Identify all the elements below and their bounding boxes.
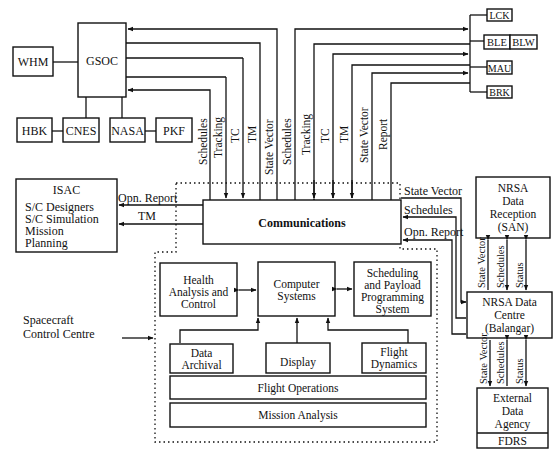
- svg-text:HBK: HBK: [22, 124, 48, 138]
- computer-systems-box: Computer Systems: [258, 262, 335, 316]
- svg-text:MAU: MAU: [488, 63, 512, 74]
- blw-box: BLW: [510, 35, 537, 49]
- svg-text:Data: Data: [502, 405, 524, 417]
- hbk-box: HBK: [17, 118, 52, 142]
- nrsa-reception-box: NRSA Data Reception (SAN): [476, 177, 550, 238]
- cnes-box: CNES: [63, 118, 99, 142]
- svg-text:Health: Health: [183, 274, 214, 286]
- svg-text:Schedules: Schedules: [404, 203, 453, 217]
- svg-text:Opn. Report: Opn. Report: [404, 225, 464, 239]
- scheduling-payload-box: Scheduling and Payload Programming Syste…: [354, 262, 431, 316]
- svg-text:TM: TM: [138, 209, 156, 223]
- svg-text:Schedules: Schedules: [495, 245, 506, 288]
- health-analysis-box: Health Analysis and Control: [160, 263, 237, 316]
- display-box: Display: [266, 343, 330, 373]
- nasa-box: NASA: [110, 118, 145, 142]
- svg-text:Data: Data: [502, 195, 524, 207]
- svg-text:Schedules: Schedules: [281, 118, 293, 165]
- svg-text:Reception: Reception: [490, 208, 537, 221]
- svg-text:BRK: BRK: [489, 87, 510, 98]
- gsoc-link-labels: Schedules Tracking TC TM State Vector: [197, 117, 275, 175]
- svg-text:ISAC: ISAC: [53, 183, 80, 197]
- svg-text:Control: Control: [181, 298, 216, 310]
- svg-text:Data: Data: [191, 347, 213, 359]
- svg-text:Centre: Centre: [494, 309, 525, 321]
- station-links: [295, 15, 487, 200]
- svg-text:Systems: Systems: [277, 290, 316, 303]
- scc-label: Spacecraft Control Centre: [23, 313, 95, 341]
- svg-text:Display: Display: [280, 356, 316, 369]
- svg-text:State Vector: State Vector: [263, 119, 275, 175]
- svg-text:GSOC: GSOC: [86, 54, 118, 68]
- svg-text:CNES: CNES: [66, 124, 97, 138]
- block-diagram: WHM GSOC HBK CNES NASA PKF Schedules Tra…: [0, 0, 558, 458]
- svg-text:BLW: BLW: [512, 37, 535, 48]
- svg-text:Archival: Archival: [181, 359, 221, 371]
- svg-text:State Vector: State Vector: [404, 184, 462, 198]
- centre-external-links: State Vector Schedules Status: [478, 333, 526, 386]
- svg-text:Communications: Communications: [258, 216, 346, 230]
- svg-text:Mission Analysis: Mission Analysis: [258, 409, 338, 422]
- svg-text:Tracking: Tracking: [212, 117, 225, 158]
- svg-text:Tracking: Tracking: [300, 114, 313, 155]
- gsoc-links: [126, 29, 277, 200]
- svg-text:NRSA Data: NRSA Data: [482, 296, 537, 308]
- lck-box: LCK: [487, 9, 512, 21]
- svg-text:Flight Operations: Flight Operations: [258, 382, 339, 395]
- svg-text:System: System: [376, 303, 410, 316]
- svg-text:Planning: Planning: [25, 236, 68, 250]
- brk-box: BRK: [487, 86, 512, 98]
- svg-text:State Vector: State Vector: [478, 333, 489, 384]
- svg-text:NASA: NASA: [111, 124, 144, 138]
- svg-text:TM: TM: [338, 126, 350, 143]
- mission-analysis-box: Mission Analysis: [170, 403, 426, 427]
- svg-text:Agency: Agency: [495, 418, 531, 431]
- svg-text:WHM: WHM: [18, 55, 49, 69]
- svg-text:Opn. Report: Opn. Report: [118, 191, 178, 205]
- svg-text:Status: Status: [514, 358, 525, 384]
- flight-operations-box: Flight Operations: [170, 376, 426, 399]
- flight-dynamics-box: Flight Dynamics: [362, 343, 426, 373]
- svg-text:External: External: [493, 392, 532, 404]
- reception-centre-links: State Vector Schedules Status: [476, 237, 526, 290]
- isac-links: Opn. Report TM: [118, 191, 203, 224]
- svg-text:State Vector: State Vector: [358, 107, 370, 163]
- pkf-box: PKF: [156, 118, 192, 142]
- svg-text:State Vector: State Vector: [476, 237, 487, 288]
- station-link-labels: Schedules Tracking TC TM State Vector Re…: [281, 107, 390, 165]
- svg-text:BLE: BLE: [487, 37, 507, 48]
- isac-box: ISAC S/C Designers S/C Simulation Missio…: [16, 179, 117, 252]
- svg-text:Schedules: Schedules: [495, 341, 506, 384]
- gsoc-box: GSOC: [78, 23, 126, 97]
- svg-text:PKF: PKF: [163, 124, 185, 138]
- svg-text:TC: TC: [229, 128, 241, 143]
- whm-box: WHM: [13, 47, 53, 76]
- svg-text:Control Centre: Control Centre: [23, 327, 95, 341]
- svg-text:TC: TC: [319, 128, 331, 143]
- svg-text:Report: Report: [377, 118, 390, 150]
- mau-box: MAU: [487, 61, 512, 74]
- svg-text:(Balangar): (Balangar): [485, 322, 534, 335]
- svg-text:(SAN): (SAN): [498, 221, 529, 234]
- external-data-agency-box: External Data Agency FDRS: [477, 388, 548, 448]
- ble-box: BLE: [484, 35, 510, 49]
- svg-text:Spacecraft: Spacecraft: [23, 313, 74, 327]
- fdrs-label: FDRS: [498, 435, 527, 447]
- svg-text:NRSA: NRSA: [498, 182, 529, 194]
- svg-text:Schedules: Schedules: [197, 118, 209, 165]
- svg-text:Dynamics: Dynamics: [371, 358, 418, 371]
- svg-text:LCK: LCK: [490, 10, 511, 21]
- data-archival-box: Data Archival: [170, 344, 233, 373]
- svg-text:TM: TM: [246, 126, 258, 143]
- nrsa-data-centre-box: NRSA Data Centre (Balangar): [467, 292, 552, 338]
- communications-box: Communications: [203, 200, 401, 244]
- svg-text:Status: Status: [514, 262, 525, 288]
